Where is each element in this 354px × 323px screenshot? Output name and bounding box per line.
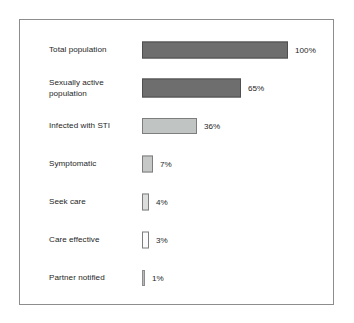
bar-category-label: Sexually active population xyxy=(49,78,147,99)
bar-category-label: Care effective xyxy=(49,235,147,246)
bar-rect xyxy=(142,79,241,98)
bar-value-label: 7% xyxy=(160,160,172,169)
bar-category-label: Seek care xyxy=(49,197,147,208)
bar-row: Partner notified1% xyxy=(20,263,335,293)
bar-value-label: 65% xyxy=(248,84,264,93)
bar-track: 1% xyxy=(142,263,335,293)
bar-category-label: Infected with STI xyxy=(49,121,147,132)
bar-row: Care effective3% xyxy=(20,225,335,255)
chart-frame: Total population100%Sexually active popu… xyxy=(19,19,334,305)
bar-rect xyxy=(142,42,288,59)
bar-value-label: 36% xyxy=(204,122,220,131)
bar-track: 65% xyxy=(142,73,335,103)
bar-value-label: 1% xyxy=(152,274,164,283)
bar-row: Seek care4% xyxy=(20,187,335,217)
bar-row: Total population100% xyxy=(20,35,335,65)
bar-value-label: 100% xyxy=(295,46,316,55)
bar-value-label: 4% xyxy=(156,198,168,207)
bar-row: Sexually active population65% xyxy=(20,73,335,103)
figure-canvas: Total population100%Sexually active popu… xyxy=(0,0,354,323)
bar-rect xyxy=(142,232,149,249)
bar-rect xyxy=(142,194,149,211)
bar-rect xyxy=(142,156,153,173)
bar-row: Symptomatic7% xyxy=(20,149,335,179)
bar-category-label: Symptomatic xyxy=(49,159,147,170)
bar-row: Infected with STI36% xyxy=(20,111,335,141)
bar-track: 36% xyxy=(142,111,335,141)
bar-chart-plot-area: Total population100%Sexually active popu… xyxy=(20,20,335,306)
bar-track: 7% xyxy=(142,149,335,179)
bar-rect xyxy=(142,270,145,286)
bar-track: 100% xyxy=(142,35,335,65)
bar-value-label: 3% xyxy=(156,236,168,245)
bar-track: 4% xyxy=(142,187,335,217)
bar-track: 3% xyxy=(142,225,335,255)
bar-rect xyxy=(142,118,197,134)
bar-category-label: Total population xyxy=(49,45,147,56)
bar-category-label: Partner notified xyxy=(49,273,147,284)
